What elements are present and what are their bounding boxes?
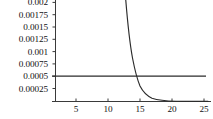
chart-figure: 0.002 0.00175 0.0015 0.00125 0.001 0.000…: [0, 0, 213, 119]
x-tick-label-20: 20: [162, 104, 182, 114]
x-tick-label-15: 15: [130, 104, 150, 114]
x-tick-label-10: 10: [98, 104, 118, 114]
x-tick-label-25: 25: [194, 104, 213, 114]
x-tick-labels: 5 10 15 20 25: [0, 0, 213, 119]
x-tick-label-5: 5: [66, 104, 86, 114]
